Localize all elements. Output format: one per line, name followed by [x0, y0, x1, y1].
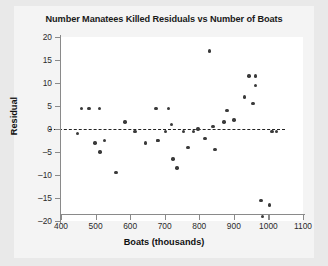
x-axis-tick: [234, 215, 235, 220]
x-axis-tick: [165, 215, 166, 220]
y-axis-tick-label: –5: [22, 147, 52, 157]
data-point: [254, 74, 257, 77]
x-axis-tick: [199, 215, 200, 220]
chart-card: Number Manatees Killed Residuals vs Numb…: [14, 6, 314, 258]
x-axis-tick: [303, 215, 304, 220]
data-point: [259, 199, 262, 202]
data-point: [254, 84, 257, 87]
x-axis-tick: [130, 215, 131, 220]
data-point: [80, 107, 83, 110]
y-axis-tick: [55, 152, 60, 153]
data-point: [275, 130, 278, 133]
y-axis-tick: [55, 83, 60, 84]
data-point: [211, 125, 214, 128]
data-point: [222, 120, 225, 123]
data-point: [268, 203, 271, 206]
data-point: [213, 148, 216, 151]
y-axis-tick: [55, 60, 60, 61]
y-axis-tick: [55, 37, 60, 38]
x-axis-title: Boats (thousands): [14, 237, 314, 247]
y-axis-tick-label: 10: [22, 78, 52, 88]
data-point: [247, 74, 250, 77]
data-point: [186, 146, 189, 149]
data-point: [98, 107, 101, 110]
y-axis-tick: [55, 129, 60, 130]
data-point: [154, 107, 157, 110]
data-point: [175, 166, 178, 169]
data-point: [243, 95, 246, 98]
chart-title: Number Manatees Killed Residuals vs Numb…: [14, 14, 314, 24]
data-point: [114, 171, 117, 174]
data-point: [270, 130, 273, 133]
zero-reference-line: [49, 129, 285, 130]
y-axis-tick-label: 20: [22, 32, 52, 42]
x-axis-tick: [96, 215, 97, 220]
data-point: [167, 107, 170, 110]
data-point: [76, 132, 79, 135]
data-point: [93, 141, 96, 144]
data-point: [170, 123, 173, 126]
data-point: [251, 102, 254, 105]
x-axis-tick: [268, 215, 269, 220]
data-point: [203, 137, 206, 140]
data-point: [144, 141, 147, 144]
data-point: [208, 49, 211, 52]
plot-area: [61, 37, 303, 221]
data-point: [87, 107, 90, 110]
data-point: [123, 120, 126, 123]
data-point: [196, 127, 199, 130]
y-axis-tick-label: 0: [22, 124, 52, 134]
y-axis-line: [60, 35, 61, 223]
data-point: [232, 118, 235, 121]
figure-container: Number Manatees Killed Residuals vs Numb…: [0, 0, 328, 266]
data-point: [182, 130, 185, 133]
data-point: [98, 150, 101, 153]
y-axis-tick-label: –10: [22, 170, 52, 180]
data-point: [103, 139, 106, 142]
y-axis-tick: [55, 198, 60, 199]
y-axis-tick-label: 5: [22, 101, 52, 111]
data-point: [133, 130, 136, 133]
y-axis-tick: [55, 106, 60, 107]
y-axis-tick: [55, 175, 60, 176]
data-point: [225, 109, 228, 112]
data-point: [171, 157, 174, 160]
y-axis-tick-label: 15: [22, 55, 52, 65]
y-axis-tick-label: –15: [22, 193, 52, 203]
x-axis-tick-label: 1100: [283, 221, 323, 231]
x-axis-tick: [61, 215, 62, 220]
data-point: [164, 130, 167, 133]
y-axis-title: Residual: [9, 97, 19, 135]
data-point: [192, 130, 195, 133]
